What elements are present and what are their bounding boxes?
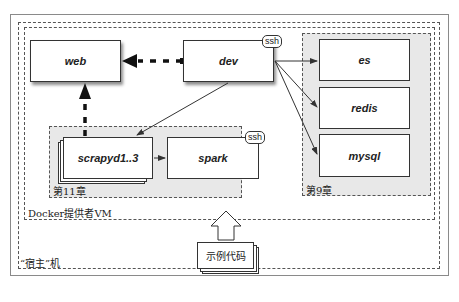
edge-dev-to-mysql xyxy=(275,61,317,154)
arrowhead-icon xyxy=(122,54,137,68)
edge-dev-to-redis xyxy=(275,61,317,107)
edge-dev-to-scrapyd xyxy=(137,83,228,135)
arrowhead-icon xyxy=(79,83,91,99)
edge-dev-to-web xyxy=(122,54,182,68)
edge-scrapyd-to-web xyxy=(79,83,91,136)
edges-layer xyxy=(0,0,459,302)
port-icon xyxy=(180,58,183,64)
hollow-up-arrow-icon xyxy=(211,211,241,240)
